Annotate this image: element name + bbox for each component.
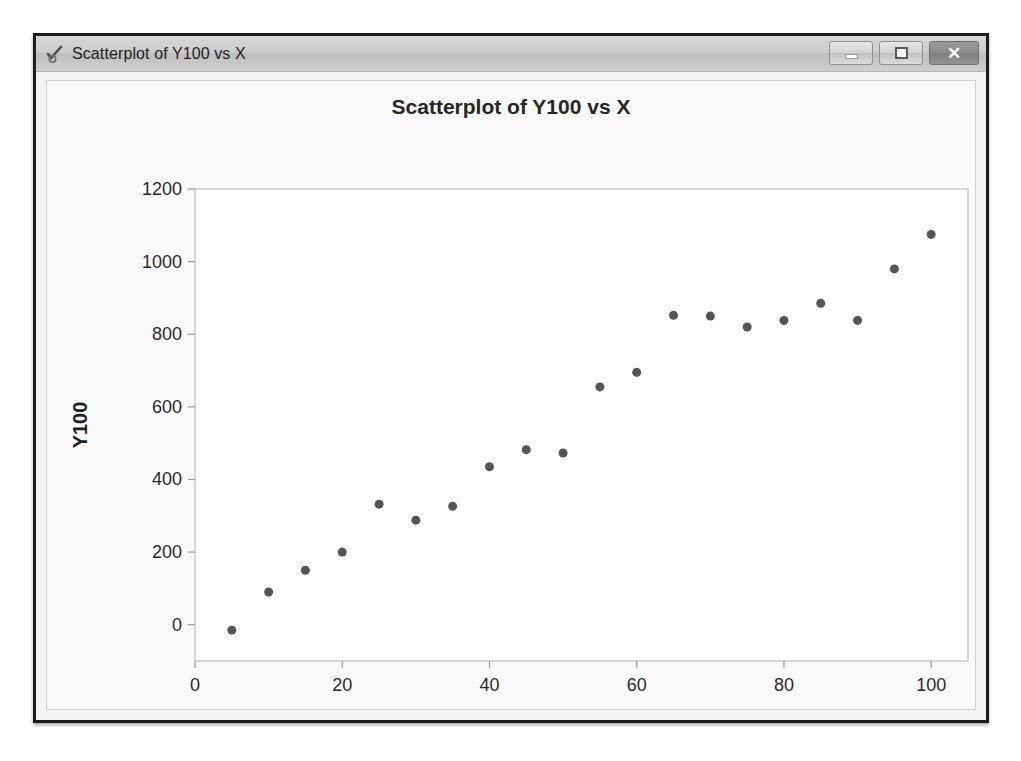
maximize-button[interactable] [879, 41, 923, 65]
scatter-point[interactable] [448, 502, 457, 511]
scatter-point[interactable] [559, 448, 568, 457]
y-tick-label: 800 [152, 324, 182, 344]
graph-panel: Scatterplot of Y100 vs X 020040060080010… [46, 80, 976, 710]
scatter-point[interactable] [301, 566, 310, 575]
scatter-point[interactable] [632, 368, 641, 377]
scatter-point[interactable] [853, 316, 862, 325]
minimize-button[interactable] [829, 41, 873, 65]
scatter-point[interactable] [375, 500, 384, 509]
y-tick-label: 1200 [142, 179, 182, 199]
scatter-point[interactable] [264, 588, 273, 597]
scatter-point[interactable] [411, 516, 420, 525]
minitab-graph-icon [44, 43, 66, 65]
x-tick-label: 20 [332, 675, 352, 695]
y-axis-title: Y100 [69, 402, 91, 449]
close-icon: ✕ [947, 45, 961, 62]
scatter-point[interactable] [338, 548, 347, 557]
scatter-point[interactable] [743, 322, 752, 331]
window-controls: ✕ [829, 41, 979, 65]
graph-window: Scatterplot of Y100 vs X ✕ Scatterplot o… [33, 33, 989, 723]
x-tick-label: 100 [916, 675, 946, 695]
scatter-point[interactable] [522, 445, 531, 454]
maximize-icon [895, 47, 908, 59]
scatter-plot[interactable]: 020040060080010001200020406080100XY100 [47, 81, 976, 707]
y-tick-label: 600 [152, 397, 182, 417]
scatter-point[interactable] [779, 316, 788, 325]
y-tick-label: 400 [152, 469, 182, 489]
x-tick-label: 80 [774, 675, 794, 695]
scatter-point[interactable] [485, 462, 494, 471]
scatter-point[interactable] [669, 311, 678, 320]
scatter-point[interactable] [890, 264, 899, 273]
y-tick-label: 1000 [142, 252, 182, 272]
y-tick-label: 0 [172, 615, 182, 635]
scatter-point[interactable] [706, 312, 715, 321]
x-tick-label: 60 [627, 675, 647, 695]
x-tick-label: 0 [190, 675, 200, 695]
close-button[interactable]: ✕ [929, 41, 979, 65]
scatter-point[interactable] [595, 382, 604, 391]
x-tick-label: 40 [479, 675, 499, 695]
window-titlebar[interactable]: Scatterplot of Y100 vs X ✕ [36, 36, 986, 72]
window-client-area: Scatterplot of Y100 vs X 020040060080010… [36, 72, 986, 720]
window-title: Scatterplot of Y100 vs X [72, 45, 246, 63]
scatter-point[interactable] [816, 299, 825, 308]
scatter-point[interactable] [927, 230, 936, 239]
scatter-point[interactable] [227, 626, 236, 635]
y-tick-label: 200 [152, 542, 182, 562]
minimize-icon [845, 54, 858, 59]
